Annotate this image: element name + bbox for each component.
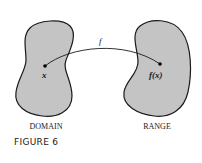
domain-point-dot bbox=[43, 64, 47, 68]
output-fx-label: f(x) bbox=[149, 70, 163, 80]
range-point-dot bbox=[158, 62, 162, 66]
range-set-shape bbox=[124, 21, 191, 117]
input-x-label: x bbox=[41, 70, 47, 80]
domain-set-shape bbox=[16, 21, 74, 116]
function-label: f bbox=[99, 36, 103, 46]
figure-caption: FIGURE 6 bbox=[14, 137, 58, 147]
range-label: RANGE bbox=[127, 122, 187, 131]
function-mapping-figure: f x f(x) DOMAIN RANGE FIGURE 6 bbox=[0, 0, 202, 163]
domain-label: DOMAIN bbox=[16, 122, 76, 131]
